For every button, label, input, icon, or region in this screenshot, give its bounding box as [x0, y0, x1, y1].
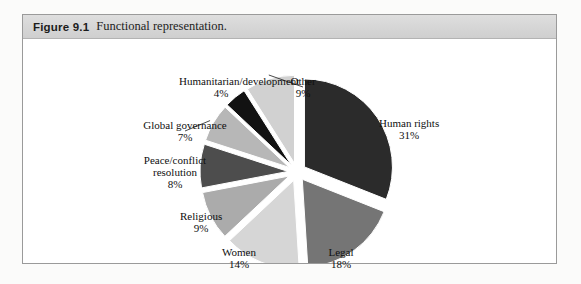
slice-percent: 8% — [133, 178, 217, 190]
slice-percent: 9% — [180, 222, 222, 234]
pie-slice-label: Peace/conflict resolution8% — [133, 154, 217, 191]
pie-slice-label: Religious9% — [180, 210, 222, 235]
slice-percent: 7% — [143, 131, 227, 143]
figure-number: Figure 9.1 — [33, 21, 89, 33]
slice-percent: 31% — [379, 129, 439, 141]
slice-percent: 9% — [291, 87, 316, 99]
slice-name: Global governance — [143, 119, 226, 131]
slice-name: Other — [291, 75, 316, 87]
slice-name: Peace/conflict resolution — [144, 154, 206, 178]
pie-slice-label: Legal18% — [329, 246, 354, 271]
slice-name: Women — [222, 246, 256, 258]
pie-slice-label: Global governance7% — [143, 119, 227, 144]
pie-slice-label: Human rights31% — [379, 117, 439, 142]
figure-header: Figure 9.1 Functional representation. — [23, 15, 556, 39]
slice-name: Religious — [180, 210, 222, 222]
pie-chart-svg — [23, 39, 556, 263]
pie-slice-label: Women14% — [222, 246, 256, 271]
pie-chart: Human rights31%Legal18%Women14%Religious… — [23, 39, 556, 263]
pie-slice-label: Humanitarian/development4% — [179, 75, 263, 100]
figure-box: Figure 9.1 Functional representation. Hu… — [22, 14, 557, 264]
pie-slice-label: Other9% — [291, 75, 316, 100]
slice-percent: 18% — [329, 258, 354, 270]
slice-name: Legal — [329, 246, 354, 258]
slice-name: Humanitarian/development — [179, 75, 299, 87]
slice-percent: 4% — [179, 87, 263, 99]
figure-caption: Functional representation. — [96, 19, 227, 34]
slice-name: Human rights — [379, 117, 439, 129]
slice-percent: 14% — [222, 258, 256, 270]
